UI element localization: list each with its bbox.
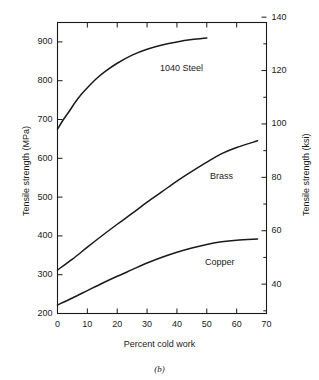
y2-tick-60: 60 [272,226,298,235]
x-tick-30: 30 [136,320,158,329]
axis-ticks [58,17,267,313]
y-axis-secondary-title: Tensile strength (ksi) [302,133,311,216]
curve-copper [58,239,258,305]
y-axis-title: Tensile strength (MPa) [22,126,31,216]
x-tick-0: 0 [47,320,69,329]
y2-tick-80: 80 [272,173,298,182]
series-label-brass: Brass [210,172,233,181]
figure-container: 200300400500600700800900 406080100120140… [0,0,319,380]
y2-tick-100: 100 [272,119,298,128]
x-tick-60: 60 [226,320,248,329]
y-tick-200: 200 [23,309,53,318]
x-tick-20: 20 [106,320,128,329]
y2-tick-40: 40 [272,280,298,289]
y2-tick-120: 120 [272,66,298,75]
series-label-1040-steel: 1040 Steel [160,64,203,73]
x-axis-title: Percent cold work [0,340,319,349]
x-tick-10: 10 [76,320,98,329]
x-tick-70: 70 [256,320,278,329]
x-tick-50: 50 [196,320,218,329]
curve-brass [58,141,258,270]
y-tick-900: 900 [23,37,53,46]
series-label-copper: Copper [205,258,235,267]
y-tick-400: 400 [23,231,53,240]
y2-tick-140: 140 [272,13,298,22]
y-tick-700: 700 [23,115,53,124]
curve-1040-steel [58,38,207,129]
x-tick-40: 40 [166,320,188,329]
figure-caption: (b) [0,364,319,374]
y-tick-800: 800 [23,76,53,85]
y-tick-300: 300 [23,270,53,279]
